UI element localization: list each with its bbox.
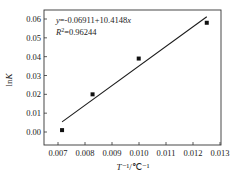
x-tick-label: 0.011 [157, 148, 176, 158]
y-tick-label: 0.05 [26, 33, 41, 43]
x-tick-label: 0.009 [102, 148, 121, 158]
x-tick-label: 0.013 [210, 148, 229, 158]
y-tick-label: 0.00 [26, 127, 41, 137]
data-point-marker [91, 92, 95, 96]
equation-annotation: y=-0.06911+10.4148x [55, 15, 131, 25]
x-tick-label: 0.008 [75, 148, 94, 158]
x-tick-label: 0.007 [48, 148, 67, 158]
y-tick-label: 0.01 [26, 108, 41, 118]
x-axis: 0.0070.0080.0090.0100.0110.0120.013 [48, 142, 229, 158]
x-tick-label: 0.012 [183, 148, 202, 158]
data-point-marker [205, 21, 209, 25]
data-point-marker [137, 57, 141, 61]
data-points [60, 21, 209, 132]
data-point-marker [60, 128, 64, 132]
y-axis-title: lnK [4, 73, 14, 87]
r-squared-annotation: R2=0.96244 [55, 27, 97, 37]
y-tick-label: 0.02 [26, 89, 41, 99]
x-tick-label: 0.010 [129, 148, 148, 158]
x-axis-title: T⁻¹/℃⁻¹ [117, 162, 150, 172]
y-tick-label: 0.06 [26, 14, 41, 24]
y-tick-label: 0.04 [26, 52, 42, 62]
chart-canvas: 0.000.010.020.030.040.050.06 0.0070.0080… [0, 0, 241, 184]
y-tick-label: 0.03 [26, 71, 41, 81]
